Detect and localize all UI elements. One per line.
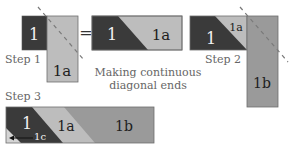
step3-label-1: 1 [22, 114, 32, 133]
step2-group: 1 1a 1b Step 2 [190, 7, 288, 107]
step2-label-1a: 1a [229, 21, 243, 34]
step2-piece-1b [247, 16, 278, 107]
step1-caption: Step 1 [5, 53, 41, 66]
caption-line-1: Making continuous [95, 66, 202, 79]
diagonal-ends-diagram: 1 1a Step 1 = 1 1a Making continuous dia… [0, 0, 289, 150]
step2-label-1: 1 [206, 29, 216, 48]
step3-label-1b: 1b [115, 118, 133, 134]
step1-label-1: 1 [29, 25, 39, 44]
step3-group: Step 3 1 1a 1b 1c [5, 90, 154, 143]
equals-sign: = [79, 23, 92, 42]
result1-label-1a: 1a [152, 26, 171, 44]
step3-caption: Step 3 [5, 90, 41, 103]
step2-label-1b: 1b [253, 75, 271, 91]
result1-group: 1 1a [92, 16, 182, 50]
step3-label-1c: 1c [34, 131, 46, 142]
step1-label-1a: 1a [53, 62, 72, 80]
step2-caption: Step 2 [205, 53, 241, 66]
step3-label-1a: 1a [57, 118, 74, 134]
result1-label-1: 1 [107, 25, 117, 44]
caption-line-2: diagonal ends [109, 79, 187, 92]
step1-group: 1 1a Step 1 [5, 7, 84, 82]
